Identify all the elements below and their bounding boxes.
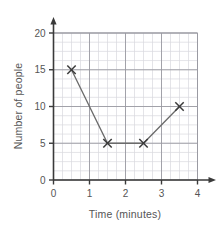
line-chart: 05101520 01234 Time (minutes) Number of …	[0, 0, 223, 225]
y-tick-label: 15	[34, 64, 46, 75]
y-tick-label: 10	[34, 101, 46, 112]
y-tick-label: 0	[40, 175, 46, 186]
x-axis-label: Time (minutes)	[89, 208, 161, 220]
major-gridlines	[54, 33, 198, 180]
x-tick-label: 1	[87, 188, 93, 199]
x-tick-label: 3	[159, 188, 165, 199]
chart-container: 05101520 01234 Time (minutes) Number of …	[0, 0, 223, 225]
y-axis	[50, 17, 56, 180]
x-tick-label: 0	[51, 188, 57, 199]
x-tick-label: 2	[123, 188, 129, 199]
y-tick-label: 20	[34, 28, 46, 39]
y-axis-label: Number of people	[12, 63, 24, 150]
x-axis-tick-labels: 01234	[51, 188, 201, 199]
y-tick-label: 5	[40, 138, 46, 149]
y-axis-tick-labels: 05101520	[34, 28, 46, 186]
x-tick-label: 4	[195, 188, 201, 199]
